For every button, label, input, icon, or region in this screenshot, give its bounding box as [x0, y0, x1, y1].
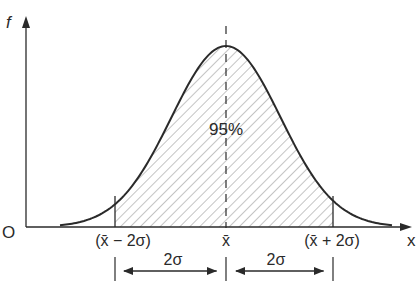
- x-axis-label: x: [407, 231, 416, 250]
- left-2sigma-label: 2σ: [164, 251, 183, 268]
- right-bound-label: (x̄ + 2σ): [304, 232, 360, 249]
- y-axis-arrow-icon: [22, 16, 30, 28]
- origin-label: O: [2, 223, 15, 242]
- left-bound-label: (x̄ − 2σ): [95, 232, 151, 249]
- right-2sigma-dimension: 2σ: [236, 251, 333, 281]
- left-2sigma-dimension: 2σ: [115, 251, 226, 281]
- y-axis-label: f: [6, 13, 13, 32]
- area-percentage-label: 95%: [209, 120, 243, 139]
- x-axis-arrow-icon: [400, 223, 412, 231]
- mean-label: x̄: [222, 232, 230, 249]
- normal-distribution-diagram: f O x 95% (x̄ − 2σ) x̄ (x̄ + 2σ) 2σ 2σ: [0, 0, 418, 283]
- right-2sigma-label: 2σ: [267, 251, 286, 268]
